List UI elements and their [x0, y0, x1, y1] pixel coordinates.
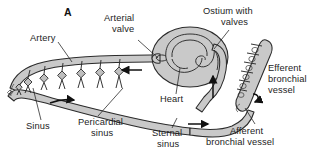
label-arterial-valve-line1: Arterial	[104, 13, 134, 24]
label-artery: Artery	[30, 33, 55, 44]
label-ostium-line2: valves	[221, 17, 248, 28]
label-sternal-line1: Sternal	[152, 128, 182, 139]
figure-panel-a: .vf{fill:#c9c9c9;stroke:#2b2b2b;stroke-w…	[0, 0, 323, 165]
label-arterial-valve-line2: valve	[112, 24, 134, 35]
label-pericardial-line1: Pericardial	[78, 117, 123, 128]
label-afferent-line2: bronchial vessel	[206, 137, 274, 148]
label-efferent-line3: vessel	[268, 85, 295, 96]
leader-sinus	[33, 88, 41, 120]
panel-label-a: A	[64, 6, 72, 18]
label-ostium-line1: Ostium with	[203, 6, 253, 17]
label-efferent-line1: Efferent	[268, 63, 301, 74]
label-afferent-line1: Afferent	[230, 126, 263, 137]
label-sternal-line2: sinus	[157, 139, 179, 150]
label-sinus: Sinus	[26, 121, 50, 132]
leader-pericardial	[98, 88, 123, 116]
bronchial-vessel-structure	[236, 40, 272, 112]
label-pericardial-line2: sinus	[91, 128, 113, 139]
label-efferent-line2: bronchial	[268, 74, 307, 85]
label-heart: Heart	[160, 94, 183, 105]
artery-vessel	[10, 55, 168, 91]
